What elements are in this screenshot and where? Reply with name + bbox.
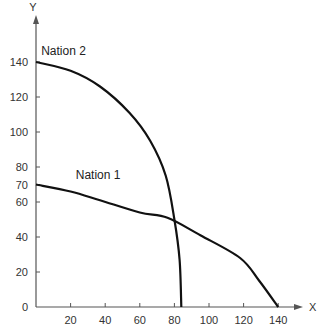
series-line-nation-1 [36, 185, 278, 308]
x-tick-label: 140 [269, 314, 287, 326]
y-tick-label: 140 [10, 56, 28, 68]
y-tick-label: 0 [22, 301, 28, 313]
y-tick-label: 80 [16, 161, 28, 173]
x-tick-label: 120 [234, 314, 252, 326]
series-line-nation-2 [36, 62, 181, 307]
y-axis-label: Y [29, 1, 37, 13]
x-tick-label: 40 [99, 314, 111, 326]
x-axis-label: X [309, 301, 317, 313]
y-tick-label: 40 [16, 231, 28, 243]
y-tick-label: 120 [10, 91, 28, 103]
series-label: Nation 2 [41, 44, 86, 58]
x-tick-label: 100 [200, 314, 218, 326]
x-axis-arrow-icon [294, 304, 303, 310]
x-tick-label: 20 [64, 314, 76, 326]
y-tick-label: 70 [16, 179, 28, 191]
ppf-chart: YX0204060708010012014020406080100120140N… [0, 0, 324, 336]
y-axis-arrow-icon [33, 15, 39, 24]
y-tick-label: 60 [16, 196, 28, 208]
y-tick-label: 20 [16, 266, 28, 278]
x-tick-label: 80 [168, 314, 180, 326]
x-tick-label: 60 [134, 314, 146, 326]
y-tick-label: 100 [10, 126, 28, 138]
series-label: Nation 1 [76, 168, 121, 182]
